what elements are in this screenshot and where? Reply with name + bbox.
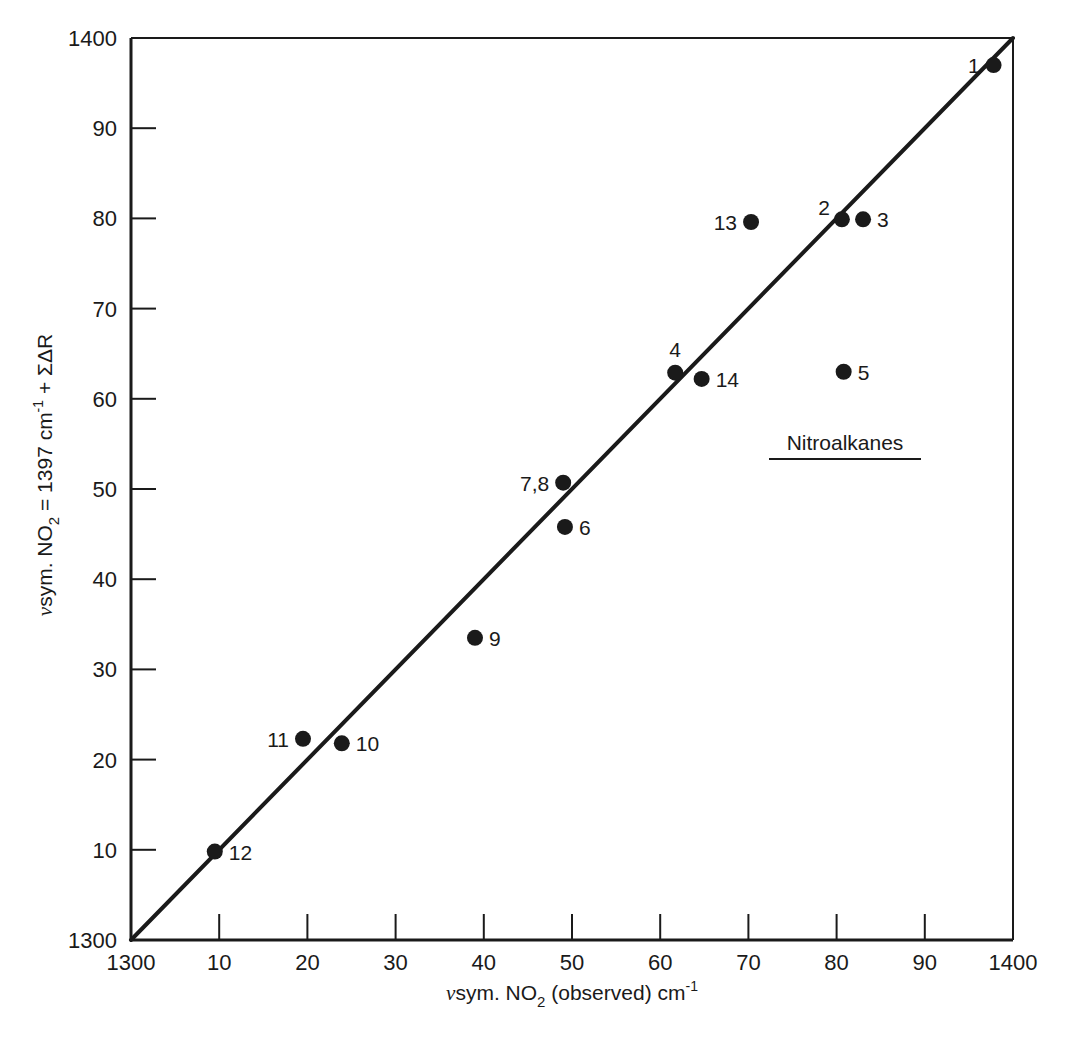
x-tick-label: 20	[295, 950, 319, 975]
x-tick-label: 90	[913, 950, 937, 975]
y-tick-label: 40	[93, 567, 117, 592]
point-label: 6	[579, 516, 591, 539]
y-tick-label: 20	[93, 748, 117, 773]
data-point: 6	[557, 516, 591, 539]
y-tick-label: 80	[93, 206, 117, 231]
point-label: 3	[877, 208, 889, 231]
x-tick-label: 10	[207, 950, 231, 975]
x-tick-label: 40	[472, 950, 496, 975]
y-tick-label: 50	[93, 477, 117, 502]
x-tick-label: 1300	[107, 950, 156, 975]
point-label: 4	[669, 338, 681, 361]
y-axis-ticks: 13001020304050607080901400	[68, 26, 156, 953]
point-label: 13	[714, 211, 737, 234]
y-tick-label: 60	[93, 387, 117, 412]
point-label: 9	[489, 627, 501, 650]
data-point: 7,8	[520, 472, 571, 495]
reference-line	[131, 38, 1013, 940]
y-tick-label: 30	[93, 657, 117, 682]
data-point: 13	[714, 211, 759, 234]
data-point: 3	[855, 208, 889, 231]
x-tick-label: 50	[560, 950, 584, 975]
x-tick-label: 30	[383, 950, 407, 975]
data-point: 5	[836, 361, 870, 384]
point-label: 14	[716, 368, 740, 391]
y-tick-label: 90	[93, 116, 117, 141]
y-tick-label: 10	[93, 838, 117, 863]
x-tick-label: 80	[824, 950, 848, 975]
x-tick-label: 60	[648, 950, 672, 975]
y-axis-title: νsym. NO2 = 1397 cm-1 + ΣΔR	[30, 334, 62, 616]
x-tick-label: 1400	[989, 950, 1038, 975]
x-axis-title: νsym. NO2 (observed) cm-1	[446, 978, 698, 1010]
x-tick-label: 70	[736, 950, 760, 975]
y-tick-label: 1300	[68, 928, 117, 953]
point-label: 2	[818, 196, 830, 219]
point-label: 12	[229, 841, 252, 864]
annotation-nitroalkanes: Nitroalkanes	[787, 431, 904, 454]
y-tick-label: 1400	[68, 26, 117, 51]
point-label: 7,8	[520, 472, 549, 495]
y-tick-label: 70	[93, 297, 117, 322]
data-point: 4	[667, 338, 683, 381]
data-point: 9	[467, 627, 501, 650]
data-point: 12	[207, 841, 252, 864]
data-point: 14	[694, 368, 740, 391]
point-label: 5	[858, 361, 870, 384]
data-point: 11	[267, 728, 311, 751]
data-point: 10	[334, 732, 379, 755]
scatter-chart: 13001020304050607080901400 1300102030405…	[0, 0, 1067, 1047]
point-label: 1	[968, 54, 980, 77]
point-label: 10	[356, 732, 379, 755]
point-label: 11	[267, 728, 289, 751]
x-axis-ticks: 13001020304050607080901400	[107, 914, 1038, 975]
